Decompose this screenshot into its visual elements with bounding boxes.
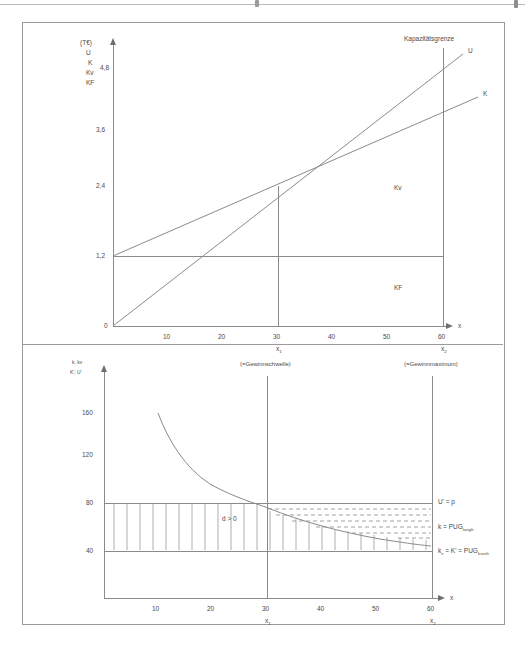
lower-marginal-cost-label: kv = K' = PUGkurzfr bbox=[438, 548, 489, 557]
figure-page: x (T€) U K Kv KF 0 1,2 2,4 3,6 4,8 10 20… bbox=[0, 0, 525, 649]
lower-price-line-label: U' = p bbox=[438, 499, 455, 506]
lower-avg-cost-label: k = PUGlangfr bbox=[438, 524, 474, 533]
lower-profit-region-label: d > 0 bbox=[222, 516, 237, 523]
